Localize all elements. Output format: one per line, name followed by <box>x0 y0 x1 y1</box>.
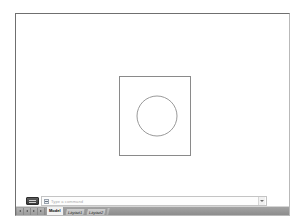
drawing-entities <box>16 14 289 207</box>
command-input-placeholder[interactable]: Type a command <box>51 199 258 204</box>
layout-tabs: Model Layout1 Layout2 <box>46 207 110 215</box>
layout-status-bar: Model Layout1 Layout2 <box>16 206 289 215</box>
tab-model[interactable]: Model <box>46 207 64 215</box>
command-line-drag-handle[interactable] <box>26 197 39 205</box>
tab-nav-first[interactable] <box>17 208 24 215</box>
rectangle-entity[interactable] <box>120 77 191 156</box>
tab-layout1[interactable]: Layout1 <box>64 209 86 215</box>
command-input-wrapper[interactable]: Type a command <box>41 196 267 206</box>
tab-nav-next[interactable] <box>31 208 38 215</box>
layout-tab-navigation <box>17 208 45 215</box>
command-prompt-icon <box>44 199 49 204</box>
drawing-window-frame: Type a command Model Layout1 Layout2 <box>15 13 290 216</box>
tab-nav-last[interactable] <box>38 208 45 215</box>
grip-dots-icon <box>29 200 36 204</box>
status-bar-filler <box>110 207 289 215</box>
chevron-down-icon[interactable] <box>258 197 265 205</box>
circle-entity[interactable] <box>137 96 177 136</box>
command-line-bar[interactable]: Type a command <box>26 196 267 206</box>
tab-layout2[interactable]: Layout2 <box>85 209 107 215</box>
application-window: Type a command Model Layout1 Layout2 <box>0 0 304 224</box>
tab-nav-prev[interactable] <box>24 208 31 215</box>
drawing-canvas[interactable]: Type a command <box>16 14 289 207</box>
